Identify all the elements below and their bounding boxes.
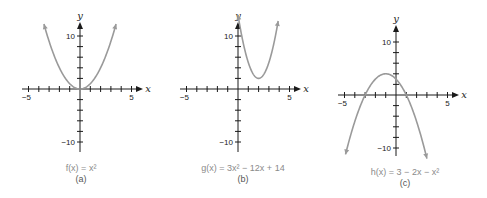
curve — [238, 15, 278, 79]
svg-text:5: 5 — [445, 99, 450, 108]
y-arrow-icon — [77, 22, 83, 29]
x-arrow-icon — [452, 92, 459, 98]
svg-text:y: y — [76, 10, 83, 21]
svg-text:x: x — [303, 83, 309, 94]
svg-text:x: x — [461, 89, 467, 100]
caption-a: f(x) = x² (a) — [1, 163, 161, 185]
caption-b-label: (b) — [163, 174, 323, 185]
svg-text:10: 10 — [382, 38, 391, 47]
x-arrow-icon — [294, 86, 301, 92]
svg-text:5: 5 — [287, 93, 292, 102]
svg-text:10: 10 — [224, 32, 233, 41]
caption-b: g(x) = 3x² − 12x + 14 (b) — [163, 163, 323, 185]
caption-c-label: (c) — [325, 178, 485, 189]
svg-text:x: x — [145, 83, 151, 94]
graph-a: −5510−10xy — [22, 10, 151, 152]
caption-a-function: f(x) = x² — [1, 163, 161, 174]
svg-text:10: 10 — [66, 32, 75, 41]
svg-text:−10: −10 — [219, 138, 233, 147]
caption-b-function: g(x) = 3x² − 12x + 14 — [163, 163, 323, 174]
svg-text:−10: −10 — [61, 138, 75, 147]
svg-text:y: y — [392, 13, 399, 24]
graph-c: −5510−10xy — [338, 13, 467, 159]
graph-b: −5510−10xy — [180, 10, 309, 152]
svg-text:−5: −5 — [180, 93, 190, 102]
svg-text:5: 5 — [129, 93, 134, 102]
x-arrow-icon — [136, 86, 143, 92]
svg-text:−5: −5 — [338, 99, 348, 108]
caption-c: h(x) = 3 − 2x − x² (c) — [325, 167, 485, 189]
caption-c-function: h(x) = 3 − 2x − x² — [325, 167, 485, 178]
svg-text:−10: −10 — [377, 144, 391, 153]
y-arrow-icon — [393, 25, 399, 32]
svg-text:−5: −5 — [22, 93, 32, 102]
caption-a-label: (a) — [1, 174, 161, 185]
